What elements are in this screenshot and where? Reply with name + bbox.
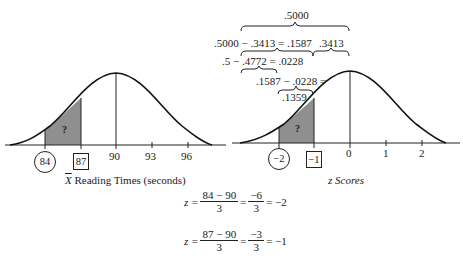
eq2-result: = −1: [266, 235, 287, 247]
eq1-result: = −2: [266, 196, 287, 208]
annotation-line3: .5 − .4772 = .0228: [222, 55, 303, 67]
annotation-line2-right: .3413: [319, 37, 344, 49]
boxed-tick-minus-1: −1: [306, 151, 322, 168]
equation-1: z = 84 − 903 = −63 = −2: [184, 189, 287, 214]
eq2-frac2: −33: [248, 228, 264, 253]
tick-90: 90: [109, 150, 120, 162]
tick-93: 93: [145, 150, 156, 162]
circled-tick-minus-2: −2: [268, 148, 290, 170]
annotation-line5: .1359: [282, 91, 307, 103]
boxed-tick-87: 87: [73, 153, 89, 170]
eq2-lhs: z =: [184, 235, 198, 247]
left-axis-title: X Reading Times (seconds): [65, 174, 186, 186]
left-axis-label: Reading Times (seconds): [74, 174, 185, 186]
left-normal-curve: [5, 73, 226, 149]
left-shaded-label: ?: [62, 124, 67, 135]
eq1-lhs: z =: [184, 196, 198, 208]
tick-96: 96: [181, 150, 192, 162]
tick-1: 1: [383, 147, 389, 159]
eq2-eq: =: [240, 235, 246, 247]
annotation-line2-left: .5000 − .3413 = .1587: [214, 37, 312, 49]
eq1-frac1: 84 − 903: [200, 189, 238, 214]
right-axis-title: z Scores: [328, 174, 364, 186]
eq1-frac2: −63: [248, 189, 264, 214]
tick-0: 0: [346, 147, 352, 159]
circled-tick-84: 84: [34, 151, 56, 173]
annotation-line4: .1587 − .0228 =: [256, 75, 326, 87]
right-shaded-label: ?: [295, 123, 300, 134]
eq1-eq: =: [240, 196, 246, 208]
tick-2: 2: [419, 147, 425, 159]
annotation-top: .5000: [284, 9, 309, 21]
equation-2: z = 87 − 903 = −33 = −1: [184, 228, 287, 253]
eq2-frac1: 87 − 903: [200, 228, 238, 253]
x-bar-symbol: X: [65, 174, 72, 186]
